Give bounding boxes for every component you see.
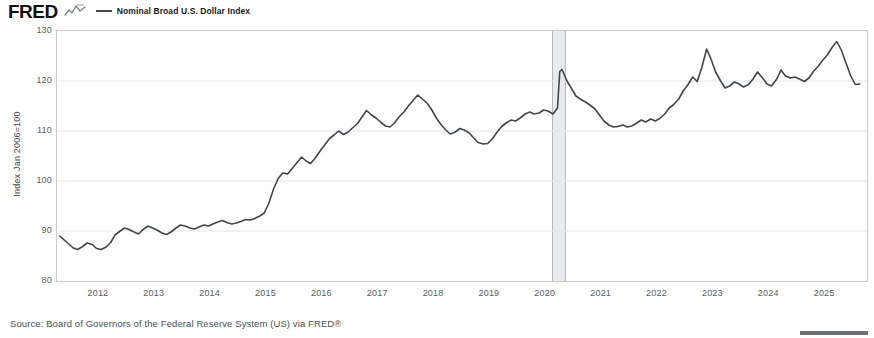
chart-line-plot (57, 31, 867, 281)
y-axis-tick: 100 (18, 175, 52, 185)
x-axis-tick: 2021 (590, 288, 611, 298)
y-axis-tick: 80 (18, 275, 52, 285)
fred-chart-figure: FRED Nominal Broad U.S. Dollar Index Ind… (0, 0, 874, 338)
y-axis-tick-labels: 1301201101009080 (10, 0, 52, 338)
x-axis-tick: 2015 (255, 288, 276, 298)
x-axis-tick: 2014 (199, 288, 220, 298)
x-axis-tick: 2018 (423, 288, 444, 298)
source-note: Source: Board of Governors of the Federa… (10, 318, 341, 329)
plot-area (56, 30, 868, 282)
x-axis-tick: 2022 (646, 288, 667, 298)
recession-band (552, 31, 565, 281)
x-axis-tick: 2024 (758, 288, 779, 298)
x-axis-tick: 2013 (143, 288, 164, 298)
fred-bar-mark-icon (800, 331, 868, 335)
y-axis-tick: 90 (18, 225, 52, 235)
fred-squiggle-icon (64, 4, 86, 18)
chart-legend: Nominal Broad U.S. Dollar Index (96, 6, 250, 16)
x-axis-tick: 2012 (87, 288, 108, 298)
x-axis-tick-labels: 2012201320142015201620172018201920202021… (56, 288, 868, 302)
legend-swatch-series-1 (96, 10, 112, 12)
x-axis-tick: 2020 (534, 288, 555, 298)
x-axis-tick: 2016 (311, 288, 332, 298)
x-axis-tick: 2017 (367, 288, 388, 298)
series-line-1 (60, 42, 860, 250)
x-axis-tick: 2023 (702, 288, 723, 298)
x-axis-tick: 2019 (479, 288, 500, 298)
chart-header: FRED Nominal Broad U.S. Dollar Index (0, 0, 874, 22)
y-axis-tick: 120 (18, 75, 52, 85)
legend-label-series-1: Nominal Broad U.S. Dollar Index (117, 6, 250, 16)
x-axis-tick: 2025 (814, 288, 835, 298)
y-axis-tick: 130 (18, 25, 52, 35)
y-axis-tick: 110 (18, 125, 52, 135)
